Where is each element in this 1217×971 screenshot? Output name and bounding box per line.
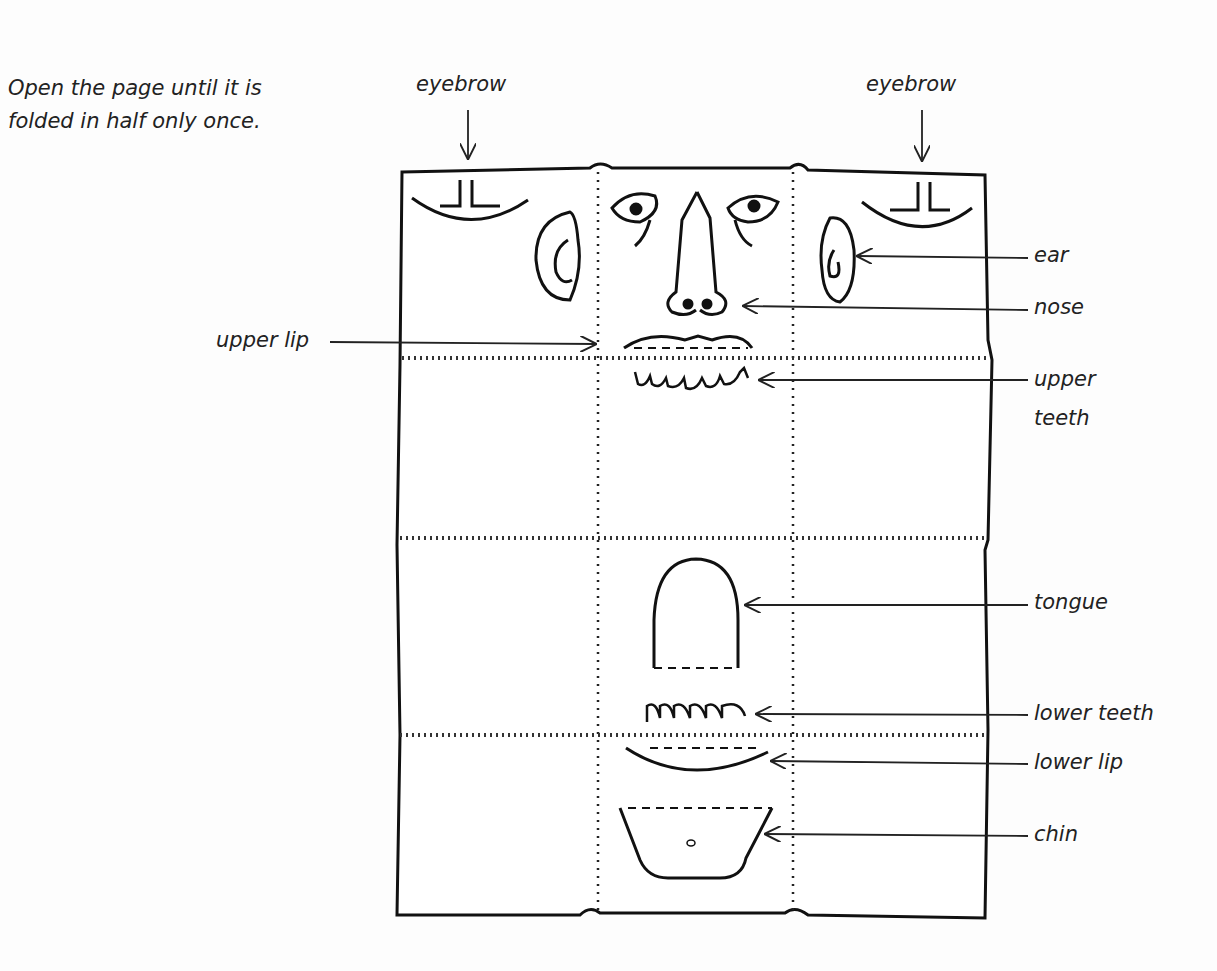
label-upper-teeth-line1: upper — [1034, 367, 1096, 391]
label-upper-lip: upper lip — [216, 328, 309, 352]
label-tongue: tongue — [1034, 590, 1108, 614]
label-upper-teeth-line2: teeth — [1034, 406, 1090, 430]
label-ear: ear — [1034, 243, 1068, 267]
label-nose: nose — [1034, 295, 1084, 319]
label-lower-lip: lower lip — [1034, 750, 1123, 774]
label-eyebrow-left: eyebrow — [416, 72, 506, 96]
label-lower-teeth: lower teeth — [1034, 701, 1154, 725]
label-eyebrow-right: eyebrow — [866, 72, 956, 96]
arrow-lower-teeth — [757, 714, 1028, 715]
page-outline — [397, 164, 992, 918]
label-chin: chin — [1034, 822, 1078, 846]
